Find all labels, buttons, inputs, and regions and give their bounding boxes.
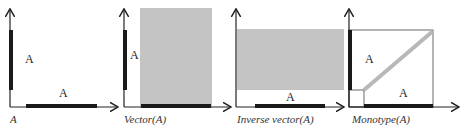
panel-vector — [123, 8, 230, 108]
caption-monotype: Monotype(A) — [352, 113, 410, 125]
vertical-bar — [9, 30, 13, 90]
horizontal-bar — [364, 104, 433, 108]
caption-vector: Vector(A) — [124, 113, 166, 125]
label-vertical: A — [365, 52, 374, 67]
caption-inverse-vector: Inverse vector(A) — [237, 113, 314, 125]
label-horizontal: A — [399, 86, 408, 101]
vertical-bar — [123, 30, 127, 90]
label-vertical: A — [130, 48, 139, 63]
caption-a: A — [10, 113, 17, 125]
label-horizontal: A — [286, 90, 295, 105]
label-vertical: A — [25, 52, 34, 67]
horizontal-bar — [26, 104, 97, 108]
diagonal-line — [364, 31, 433, 90]
shaded-region — [237, 29, 344, 90]
vertical-bar — [348, 30, 352, 90]
corner-box — [349, 90, 364, 107]
horizontal-bar — [141, 104, 211, 108]
label-horizontal: A — [59, 86, 68, 101]
shaded-region — [140, 8, 212, 106]
